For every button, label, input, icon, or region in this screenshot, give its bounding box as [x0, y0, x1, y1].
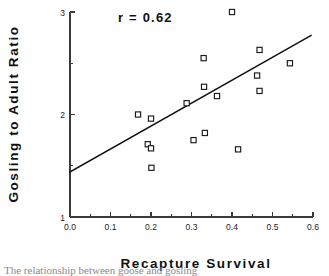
y-tick-label: 1: [60, 213, 65, 223]
data-point-marker: [202, 130, 207, 135]
data-point-marker: [201, 84, 206, 89]
axes: [70, 12, 313, 217]
data-point-marker: [191, 138, 196, 143]
data-point-marker: [229, 9, 234, 14]
correlation-annotation: r = 0.62: [118, 10, 173, 25]
fit-line: [70, 36, 311, 172]
data-point-marker: [148, 146, 153, 151]
x-tick-label: 0.5: [267, 222, 279, 232]
data-point-marker: [287, 61, 292, 66]
data-point-marker: [149, 165, 154, 170]
plot-canvas: 0.00.10.20.30.40.50.6123 r = 0.62 Recapt…: [0, 0, 329, 276]
data-point-marker: [201, 56, 206, 61]
y-axis-label: Gosling to Adult Ratio: [6, 25, 21, 202]
x-tick-label: 0.2: [145, 222, 157, 232]
caption-strip: The relationship between goose and gosli…: [0, 266, 329, 276]
data-point-marker: [184, 101, 189, 106]
data-point-marker: [257, 47, 262, 52]
data-point-marker: [235, 147, 240, 152]
x-tick-label: 0.6: [307, 222, 319, 232]
data-point-marker: [257, 88, 262, 93]
x-tick-label: 0.1: [105, 222, 117, 232]
caption-fragment: The relationship between goose and gosli…: [4, 266, 197, 276]
data-point-marker: [135, 112, 140, 117]
y-tick-label: 2: [60, 110, 65, 120]
y-tick-label: 3: [60, 8, 65, 18]
x-tick-label: 0.4: [226, 222, 238, 232]
tick-marks: [70, 12, 313, 217]
regression-line: [70, 36, 311, 172]
x-tick-label: 0.3: [186, 222, 198, 232]
scatter-plot-figure: 0.00.10.20.30.40.50.6123 r = 0.62 Recapt…: [0, 0, 329, 276]
data-point-marker: [148, 116, 153, 121]
data-point-marker: [214, 93, 219, 98]
x-tick-label: 0.0: [64, 222, 76, 232]
tick-labels: 0.00.10.20.30.40.50.6123: [60, 8, 319, 233]
data-point-marker: [255, 73, 260, 78]
